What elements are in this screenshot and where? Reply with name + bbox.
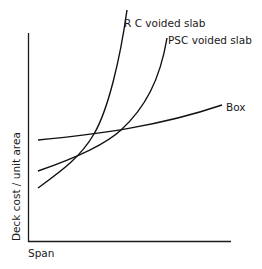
label-rc-voided-slab: R C voided slab <box>124 17 206 29</box>
y-axis-label: Deck cost / unit area <box>10 132 22 241</box>
chart: R C voided slab PSC voided slab Box Span… <box>0 0 262 269</box>
label-psc-voided-slab: PSC voided slab <box>168 34 252 46</box>
label-box: Box <box>226 101 246 113</box>
curve-psc-voided-slab <box>38 38 167 171</box>
x-axis-label: Span <box>28 247 54 259</box>
curve-rc-voided-slab <box>38 10 127 188</box>
curve-box <box>38 105 222 140</box>
